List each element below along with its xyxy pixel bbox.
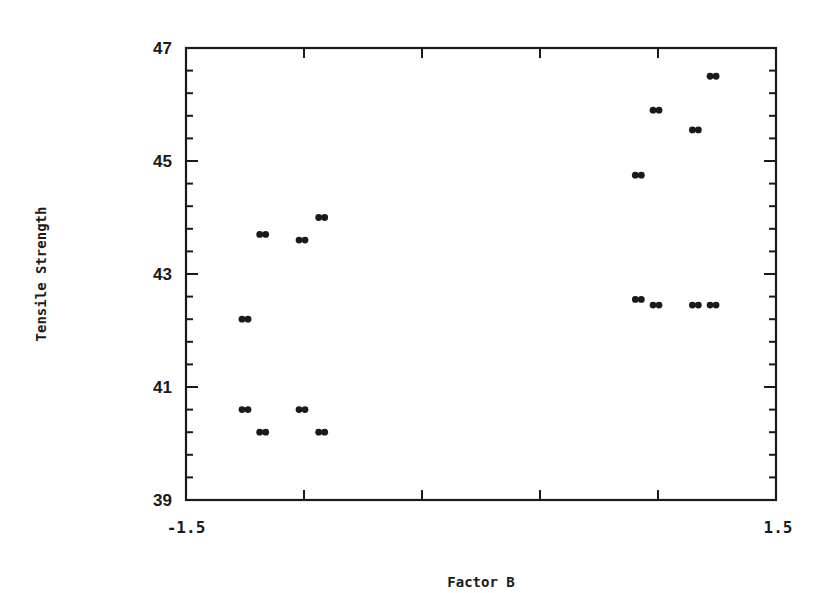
x-tick-label-min: -1.5 [167, 518, 206, 537]
data-point-marker [632, 296, 645, 303]
y-axis-title: Tensile Strength [33, 207, 49, 342]
y-tick-label: 43 [153, 265, 172, 284]
y-tick-label: 47 [153, 39, 172, 58]
y-tick-label: 45 [153, 152, 172, 171]
x-tick-label-max: 1.5 [764, 518, 793, 537]
data-point-marker [296, 406, 309, 413]
data-point-marker [239, 316, 252, 323]
data-point-marker [315, 429, 328, 436]
data-point-marker [689, 302, 702, 309]
data-point-marker [707, 73, 720, 80]
data-point-marker [689, 127, 702, 134]
y-axis-ticks [186, 71, 776, 478]
data-point-marker [315, 214, 328, 221]
data-point-marker [632, 172, 645, 179]
data-point-marker [256, 429, 269, 436]
data-point-marker [650, 107, 663, 114]
x-axis-ticks [304, 48, 658, 500]
y-tick-label: 41 [153, 378, 172, 397]
x-axis-title: Factor B [447, 574, 514, 590]
y-tick-label: 39 [153, 491, 172, 510]
data-points [239, 73, 720, 436]
y-axis-tick-labels: 3941434547 [153, 39, 172, 510]
data-point-marker [239, 406, 252, 413]
scatter-chart: 3941434547 -1.5 1.5 Factor B Tensile Str… [0, 0, 820, 593]
data-point-marker [707, 302, 720, 309]
data-point-marker [256, 231, 269, 238]
data-point-marker [650, 302, 663, 309]
data-point-marker [296, 237, 309, 244]
plot-frame [186, 48, 776, 500]
